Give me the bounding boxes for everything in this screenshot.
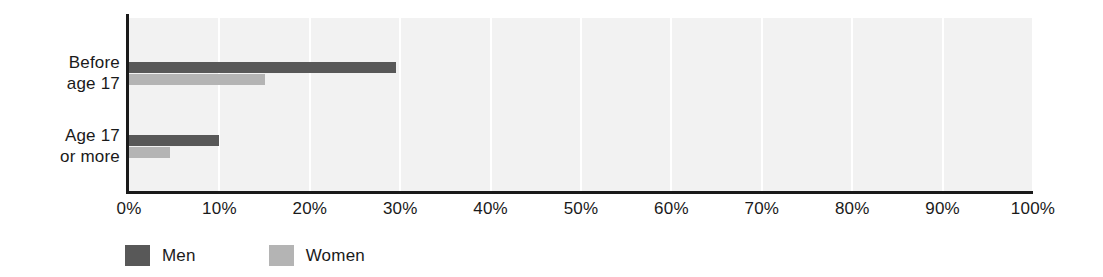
gridline <box>851 18 853 192</box>
x-axis-tick-40: 40% <box>451 198 531 220</box>
bar-men-before-age-17 <box>129 62 396 73</box>
legend-item-women: Women <box>269 245 365 266</box>
gridline <box>1032 18 1034 192</box>
y-axis-label-before-age-17: Before age 17 <box>0 52 120 94</box>
y-axis-category-labels: Before age 17 Age 17 or more <box>0 18 120 192</box>
y-axis-label-age-17-or-more: Age 17 or more <box>0 125 120 167</box>
x-axis-tick-10: 10% <box>179 198 259 220</box>
bar-women-age-17-or-more <box>129 147 170 158</box>
bar-chart: Before age 17 Age 17 or more 0%10%20%30%… <box>0 0 1103 277</box>
gridline <box>670 18 672 192</box>
x-axis-line <box>126 191 1033 194</box>
chart-legend: Men Women <box>125 243 438 267</box>
x-axis-tick-20: 20% <box>270 198 350 220</box>
bar-men-age-17-or-more <box>129 135 219 146</box>
gridline <box>761 18 763 192</box>
legend-swatch-women-icon <box>269 245 294 266</box>
y-axis-label-line: Age 17 <box>0 125 120 146</box>
gridline <box>218 18 220 192</box>
x-axis-tick-70: 70% <box>722 198 802 220</box>
plot-area <box>129 18 1033 192</box>
x-axis-tick-30: 30% <box>360 198 440 220</box>
x-axis-tick-100: 100% <box>993 198 1073 220</box>
gridline <box>399 18 401 192</box>
gridline <box>490 18 492 192</box>
x-axis-tick-90: 90% <box>903 198 983 220</box>
bar-women-before-age-17 <box>129 74 265 85</box>
gridline <box>942 18 944 192</box>
y-axis-label-line: age 17 <box>0 73 120 94</box>
legend-label-women: Women <box>306 245 365 266</box>
x-axis-tick-80: 80% <box>812 198 892 220</box>
y-axis-label-line: or more <box>0 146 120 167</box>
legend-item-men: Men <box>125 245 196 266</box>
y-axis-line <box>126 14 129 194</box>
x-axis-tick-60: 60% <box>631 198 711 220</box>
legend-swatch-men-icon <box>125 245 150 266</box>
x-axis-tick-labels: 0%10%20%30%40%50%60%70%80%90%100% <box>0 198 1103 222</box>
legend-label-men: Men <box>162 245 196 266</box>
gridline <box>309 18 311 192</box>
x-axis-tick-50: 50% <box>541 198 621 220</box>
gridline <box>580 18 582 192</box>
x-axis-tick-0: 0% <box>89 198 169 220</box>
y-axis-label-line: Before <box>0 52 120 73</box>
